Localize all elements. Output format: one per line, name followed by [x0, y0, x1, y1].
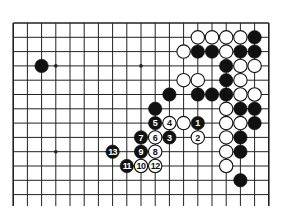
stone-disc [234, 31, 247, 44]
stone-disc [248, 116, 261, 129]
move-number-label: 11 [123, 161, 132, 171]
stone-disc [248, 45, 261, 58]
black-stone [234, 145, 247, 158]
numbered-black-stone: 7 [134, 131, 147, 144]
stone-disc [220, 59, 233, 72]
numbered-white-stone: 6 [149, 131, 162, 144]
black-stone [248, 45, 261, 58]
black-stone [220, 74, 233, 87]
stone-disc [177, 45, 190, 58]
move-number-label: 8 [153, 147, 158, 157]
numbered-white-stone: 2 [191, 131, 204, 144]
go-board: 54176321398111012 [0, 0, 289, 224]
stone-disc [248, 102, 261, 115]
black-stone [234, 174, 247, 187]
white-stone [234, 116, 247, 129]
white-stone [177, 116, 190, 129]
stone-disc [234, 88, 247, 101]
stone-disc [220, 31, 233, 44]
stone-disc [163, 88, 176, 101]
stone-disc [234, 74, 247, 87]
white-stone [220, 159, 233, 172]
move-number-label: 6 [153, 133, 158, 143]
stone-disc [220, 145, 233, 158]
stone-disc [234, 131, 247, 144]
white-stone [234, 59, 247, 72]
white-stone [177, 45, 190, 58]
black-stone [163, 88, 176, 101]
black-stone [220, 59, 233, 72]
numbered-black-stone: 3 [163, 131, 176, 144]
move-number-label: 12 [151, 161, 160, 171]
numbered-white-stone: 10 [134, 159, 147, 172]
black-stone [248, 102, 261, 115]
black-stone [191, 88, 204, 101]
move-number-label: 3 [167, 133, 172, 143]
stone-disc [191, 45, 204, 58]
numbered-black-stone: 9 [134, 145, 147, 158]
stone-disc [234, 174, 247, 187]
numbered-black-stone: 11 [120, 159, 133, 172]
move-number-label: 5 [153, 118, 158, 128]
white-stone [220, 31, 233, 44]
numbered-black-stone: 5 [149, 116, 162, 129]
white-stone [205, 31, 218, 44]
stone-disc [177, 74, 190, 87]
stone-disc [220, 116, 233, 129]
stone-disc [191, 74, 204, 87]
numbered-black-stone: 13 [106, 145, 119, 158]
stone-disc [220, 159, 233, 172]
stone-disc [234, 59, 247, 72]
white-stone [234, 31, 247, 44]
black-stone [220, 88, 233, 101]
stone-disc [234, 145, 247, 158]
white-stone [191, 74, 204, 87]
move-number-label: 13 [108, 147, 117, 157]
numbered-white-stone: 8 [149, 145, 162, 158]
black-stone [248, 116, 261, 129]
white-stone [191, 31, 204, 44]
white-stone [248, 59, 261, 72]
black-stone [234, 131, 247, 144]
black-stone [248, 31, 261, 44]
stone-disc [248, 59, 261, 72]
move-number-label: 7 [138, 133, 143, 143]
stone-disc [248, 31, 261, 44]
stone-disc [191, 31, 204, 44]
white-stone [177, 74, 190, 87]
white-stone [248, 88, 261, 101]
black-stone [205, 45, 218, 58]
stone-disc [234, 45, 247, 58]
star-point [54, 64, 58, 68]
numbered-black-stone: 1 [191, 116, 204, 129]
stone-disc [234, 116, 247, 129]
stone-disc [177, 116, 190, 129]
numbered-white-stone: 12 [149, 159, 162, 172]
numbered-white-stone: 4 [163, 116, 176, 129]
stone-disc [220, 88, 233, 101]
stone-disc [220, 74, 233, 87]
star-point [139, 64, 143, 68]
stone-disc [35, 59, 48, 72]
white-stone [220, 145, 233, 158]
white-stone [234, 74, 247, 87]
move-number-label: 4 [167, 118, 172, 128]
white-stone [234, 88, 247, 101]
stone-disc [220, 102, 233, 115]
move-number-label: 10 [137, 161, 146, 171]
stone-disc [149, 102, 162, 115]
move-number-label: 9 [138, 147, 143, 157]
black-stone [149, 102, 162, 115]
white-stone [220, 45, 233, 58]
black-stone [35, 59, 48, 72]
white-stone [220, 102, 233, 115]
stone-disc [220, 45, 233, 58]
move-number-label: 2 [195, 133, 200, 143]
star-point [54, 150, 58, 154]
stone-disc [205, 45, 218, 58]
stone-disc [220, 131, 233, 144]
stone-disc [205, 31, 218, 44]
black-stone [234, 102, 247, 115]
stone-disc [191, 88, 204, 101]
move-number-label: 1 [195, 118, 200, 128]
